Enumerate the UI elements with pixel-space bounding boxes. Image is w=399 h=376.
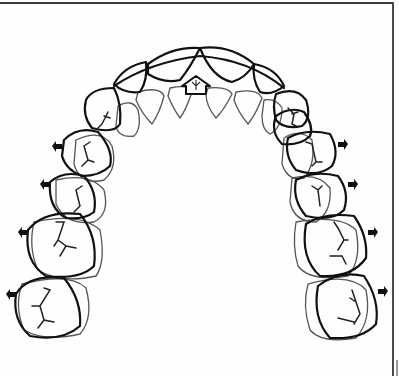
upper-premolar-right-2	[287, 132, 336, 173]
thin-incisor-left-lateral	[136, 90, 164, 124]
arrow-left-icon	[40, 179, 50, 190]
arrow-left-icon	[52, 141, 62, 152]
upper-lateral-incisor-right	[254, 64, 284, 93]
arrow-right-icon	[378, 286, 388, 297]
arrow-up-outline-icon	[182, 76, 210, 94]
thin-canine-right	[262, 100, 282, 134]
upper-central-incisor-left	[148, 48, 200, 81]
dental-arch-figure: Occlusal view of upper dental arch with …	[0, 0, 399, 376]
dental-arch-drawing: .b { fill: none; stroke: #111; stroke-wi…	[0, 0, 399, 376]
upper-central-incisor-right	[200, 47, 254, 82]
arrow-right-icon	[338, 139, 348, 150]
arrow-right-icon	[348, 179, 358, 190]
upper-molar-left-2	[15, 277, 80, 337]
thin-molar-left-1	[32, 218, 103, 278]
thin-incisor-right-lateral	[234, 91, 262, 124]
thin-molar-right-1	[294, 219, 357, 277]
arrow-right-icon	[368, 227, 378, 238]
thin-incisor-right-central	[206, 88, 232, 118]
